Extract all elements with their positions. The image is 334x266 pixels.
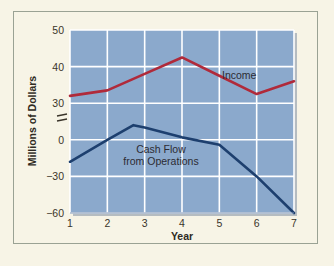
x-tick-label: 6: [254, 217, 260, 229]
series-label-income: Income: [222, 69, 257, 81]
x-axis-title: Year: [171, 230, 193, 242]
x-tick-label: 2: [104, 217, 110, 229]
x-tick-label: 1: [67, 217, 73, 229]
x-tick-label: 3: [142, 217, 148, 229]
y-tick-label: 30: [52, 97, 64, 109]
y-axis-title: Millions of Dollars: [26, 76, 38, 167]
series-label-cashflow-line1: Cash Flow: [136, 143, 186, 155]
y-tick-label: −60: [46, 207, 64, 219]
y-tick-label: 0: [58, 134, 64, 146]
y-tick-label: 50: [52, 24, 64, 36]
y-axis-tick-labels: 5040300−30−60: [46, 24, 64, 219]
axis-break-icon: [57, 114, 67, 121]
y-tick-label: −30: [46, 170, 64, 182]
series-label-cashflow-line2: from Operations: [123, 155, 198, 167]
y-tick-label: 40: [52, 61, 64, 73]
x-tick-label: 7: [291, 217, 297, 229]
chart-figure: 5040300−30−60 1234567 Millions of Dollar…: [0, 0, 334, 266]
x-tick-label: 4: [179, 217, 185, 229]
x-axis-tick-labels: 1234567: [67, 217, 297, 229]
x-tick-label: 5: [216, 217, 222, 229]
